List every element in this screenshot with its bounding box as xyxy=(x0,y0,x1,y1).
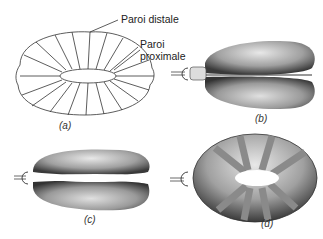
label-paroi-proximale-2: proximale xyxy=(140,50,186,62)
diagram-canvas xyxy=(0,0,323,239)
panel-b-drawing xyxy=(171,41,315,109)
panel-a-drawing xyxy=(16,20,154,115)
panel-c-drawing xyxy=(14,149,150,210)
caption-c: (c) xyxy=(84,214,96,225)
label-paroi-proximale-1: Paroi xyxy=(140,38,165,50)
label-paroi-distale: Paroi distale xyxy=(121,13,179,25)
caption-a: (a) xyxy=(59,120,71,131)
caption-d: (d) xyxy=(261,218,273,229)
caption-b: (b) xyxy=(255,113,267,124)
panel-d-drawing xyxy=(170,134,317,222)
